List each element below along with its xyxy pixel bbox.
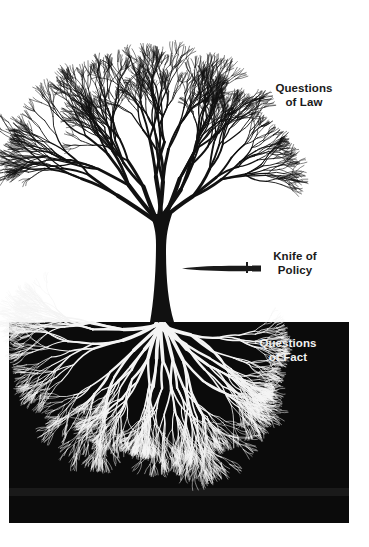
label-law-line1: Questions (268, 81, 340, 95)
label-policy-line1: Knife of (265, 249, 325, 263)
label-questions-of-fact: Questions of Fact (252, 336, 324, 364)
label-law-line2: of Law (268, 95, 340, 109)
tree-trunk (150, 214, 174, 322)
diagram-canvas: Questions of Law Knife of Policy Questio… (0, 0, 369, 547)
ground-haze-band (9, 488, 349, 496)
label-knife-of-policy: Knife of Policy (265, 249, 325, 277)
label-fact-line1: Questions (252, 336, 324, 350)
label-questions-of-law: Questions of Law (268, 81, 340, 109)
tree-crown-branches (0, 40, 308, 222)
knife-icon (182, 262, 261, 273)
label-fact-line2: of Fact (252, 350, 324, 364)
label-policy-line2: Policy (265, 263, 325, 277)
